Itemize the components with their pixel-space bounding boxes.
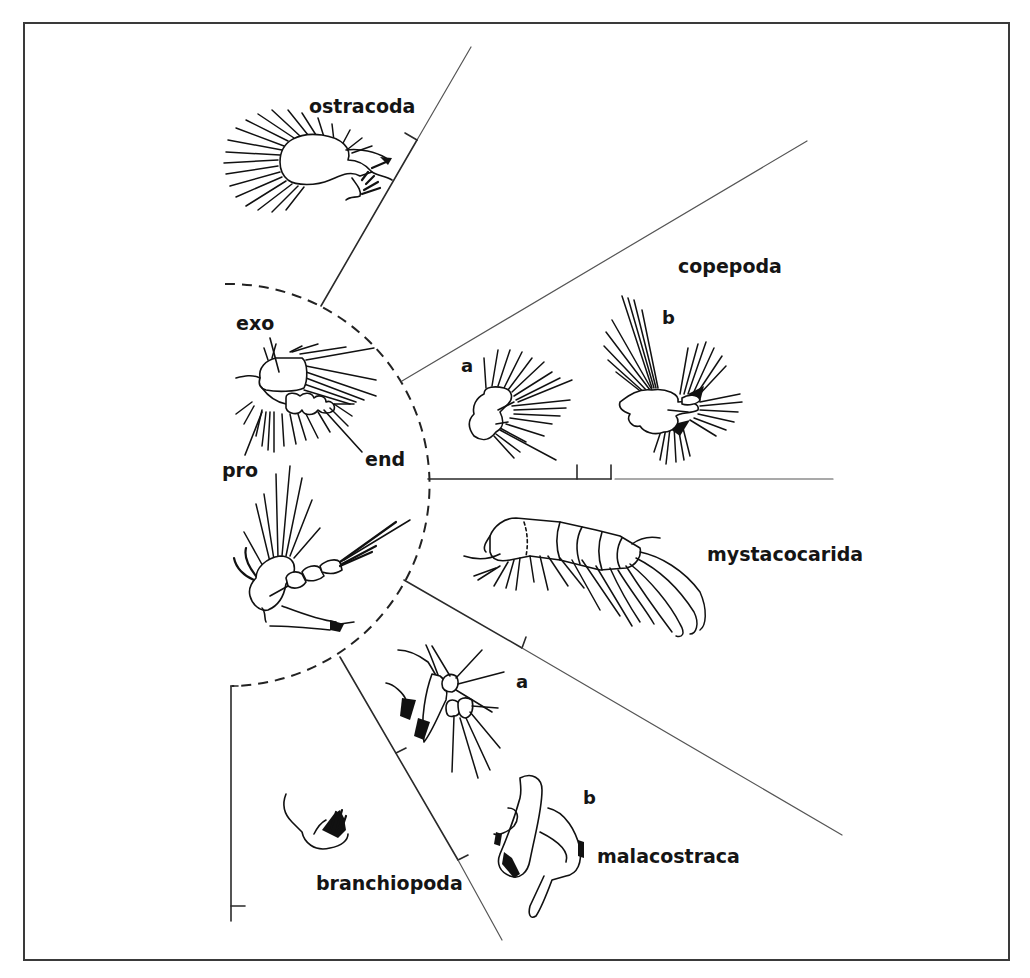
malacostraca-part-b-label: b	[583, 787, 596, 808]
mystacocarida-bracket-tick	[522, 637, 526, 648]
malacostraca-a-appendage-drawing	[386, 645, 504, 778]
ostracoda-appendage-drawing	[224, 110, 392, 212]
malacostraca-b-appendage-drawing	[494, 776, 584, 918]
copepoda-part-b-label: b	[662, 307, 675, 328]
malacostraca-bracket-tick-upper	[396, 748, 406, 753]
end-label: end	[365, 448, 405, 470]
separator-mystacocarida-extension	[522, 648, 842, 835]
central-dashed-arc	[225, 284, 430, 686]
separator-mystacocarida	[404, 580, 522, 648]
mystacocarida-label: mystacocarida	[707, 543, 863, 565]
crustacean-appendage-diagram: ostracoda	[0, 0, 1030, 978]
copepoda-label: copepoda	[678, 255, 782, 277]
malacostraca-bracket-tick-lower	[458, 855, 468, 860]
central-lower-appendage-drawing	[234, 466, 410, 632]
malacostraca-label: malacostraca	[597, 845, 740, 867]
pro-label: pro	[222, 459, 258, 481]
separator-malacostraca-extension	[458, 860, 502, 940]
separator-ostracoda-extension	[417, 47, 471, 140]
mystacocarida-appendage-drawing	[464, 518, 705, 637]
malacostraca-part-a-label: a	[516, 671, 528, 692]
copepoda-part-a-label: a	[461, 355, 473, 376]
branchiopoda-appendage-drawing	[284, 794, 348, 849]
copepoda-a-appendage-drawing	[470, 350, 573, 460]
branchiopoda-label: branchiopoda	[316, 872, 463, 894]
generalized-appendage-drawing	[236, 338, 376, 455]
ostracoda-label: ostracoda	[309, 95, 415, 117]
ostracoda-bracket-tick	[405, 133, 417, 140]
exo-label: exo	[236, 312, 274, 334]
